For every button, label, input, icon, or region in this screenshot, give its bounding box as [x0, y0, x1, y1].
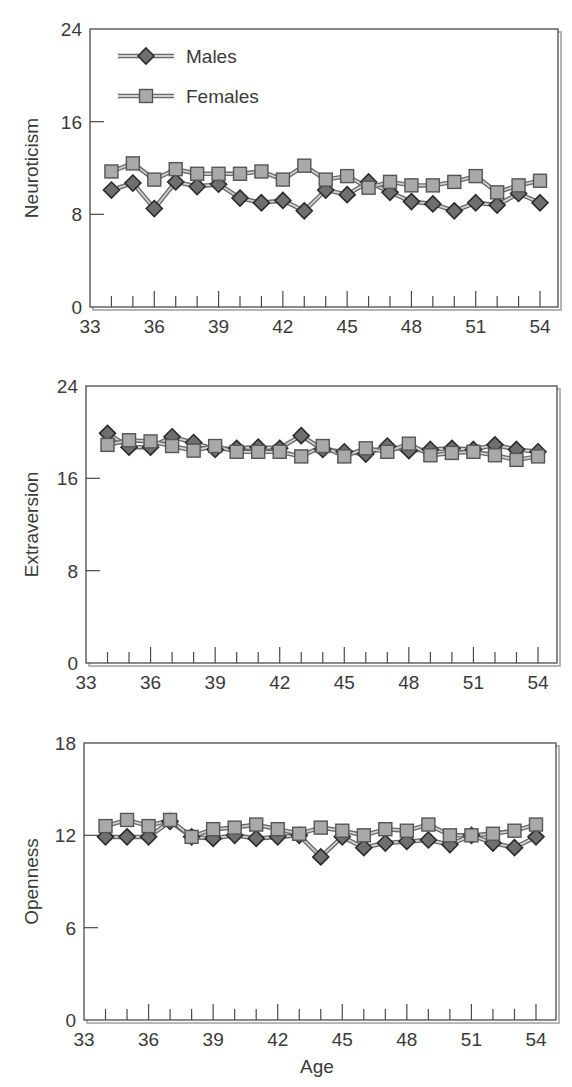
square-marker	[298, 159, 311, 172]
square-marker	[400, 824, 413, 837]
square-marker	[445, 446, 458, 459]
x-tick-label: 39	[208, 316, 229, 337]
x-tick-label: 51	[461, 1029, 482, 1050]
square-marker	[99, 820, 112, 833]
y-tick-label: 8	[67, 561, 78, 582]
plot-frame	[86, 386, 557, 663]
neuroticism-plot: 0816243336394245485154NeuroticismMalesFe…	[0, 0, 572, 355]
y-axis-title: Extraversion	[21, 472, 42, 578]
square-marker	[123, 434, 136, 447]
square-marker	[357, 829, 370, 842]
x-tick-label: 45	[337, 316, 358, 337]
square-marker	[359, 442, 372, 455]
square-marker	[166, 440, 179, 453]
square-marker	[381, 445, 394, 458]
square-marker	[191, 167, 204, 180]
square-marker	[488, 449, 501, 462]
square-marker	[510, 453, 523, 466]
square-marker	[228, 821, 241, 834]
square-marker	[530, 818, 543, 831]
square-marker	[142, 820, 155, 833]
y-tick-label: 18	[55, 733, 76, 754]
square-marker	[295, 450, 308, 463]
square-marker	[230, 445, 243, 458]
square-marker	[271, 823, 284, 836]
extraversion-chart: 0816243336394245485154Extraversion	[0, 357, 572, 712]
x-tick-label: 45	[334, 672, 355, 693]
square-marker	[424, 449, 437, 462]
y-tick-label: 6	[65, 918, 76, 939]
square-marker	[491, 186, 504, 199]
square-marker	[121, 813, 134, 826]
neuroticism-chart: 0816243336394245485154NeuroticismMalesFe…	[0, 0, 572, 355]
square-marker	[293, 827, 306, 840]
square-marker	[101, 438, 114, 451]
x-tick-label: 51	[463, 672, 484, 693]
y-tick-label: 24	[61, 19, 83, 40]
square-marker	[508, 824, 521, 837]
legend-label: Females	[186, 86, 259, 107]
plot-frame	[90, 29, 558, 307]
square-marker	[443, 829, 456, 842]
openness-chart: 0612183336394245485154OpennessAge	[0, 714, 572, 1087]
y-tick-label: 12	[55, 825, 76, 846]
square-marker	[512, 179, 525, 192]
x-tick-label: 36	[144, 316, 165, 337]
y-axis-title: Neuroticism	[21, 118, 42, 218]
x-tick-label: 36	[140, 672, 161, 693]
square-marker	[126, 157, 139, 170]
x-tick-label: 42	[267, 1029, 288, 1050]
x-tick-label: 42	[269, 672, 290, 693]
square-marker	[187, 444, 200, 457]
legend-label: Males	[186, 46, 237, 67]
square-marker	[276, 173, 289, 186]
openness-plot: 0612183336394245485154OpennessAge	[0, 714, 572, 1087]
plot-frame	[84, 743, 556, 1020]
square-marker	[362, 181, 375, 194]
square-marker	[148, 173, 161, 186]
square-marker	[338, 450, 351, 463]
y-tick-label: 16	[57, 468, 78, 489]
x-tick-label: 39	[203, 1029, 224, 1050]
square-marker	[207, 823, 220, 836]
square-marker	[319, 173, 332, 186]
x-tick-label: 33	[75, 672, 96, 693]
square-marker	[379, 823, 392, 836]
square-marker	[422, 818, 435, 831]
x-tick-label: 33	[73, 1029, 94, 1050]
square-marker	[273, 445, 286, 458]
square-marker	[534, 174, 547, 187]
x-tick-label: 48	[396, 1029, 417, 1050]
square-marker	[316, 440, 329, 453]
square-marker	[384, 175, 397, 188]
square-marker	[426, 179, 439, 192]
square-marker	[212, 167, 225, 180]
x-tick-label: 45	[332, 1029, 353, 1050]
square-marker	[250, 818, 263, 831]
y-tick-label: 0	[65, 1010, 76, 1031]
square-marker	[448, 175, 461, 188]
y-tick-label: 24	[57, 376, 79, 397]
square-marker	[234, 167, 247, 180]
square-marker	[255, 165, 268, 178]
square-marker	[402, 437, 415, 450]
x-tick-label: 48	[401, 316, 422, 337]
legend-square-icon	[140, 90, 153, 103]
y-tick-label: 8	[71, 204, 82, 225]
square-marker	[405, 179, 418, 192]
square-marker	[164, 813, 177, 826]
square-marker	[144, 435, 157, 448]
square-marker	[467, 445, 480, 458]
y-tick-label: 0	[67, 653, 78, 674]
square-marker	[105, 165, 118, 178]
x-axis-title: Age	[300, 1056, 334, 1077]
x-tick-label: 54	[529, 316, 551, 337]
square-marker	[465, 829, 478, 842]
extraversion-plot: 0816243336394245485154Extraversion	[0, 357, 572, 712]
y-tick-label: 0	[71, 297, 82, 318]
square-marker	[532, 450, 545, 463]
square-marker	[341, 170, 354, 183]
x-tick-label: 54	[525, 1029, 547, 1050]
square-marker	[314, 821, 327, 834]
x-tick-label: 51	[465, 316, 486, 337]
